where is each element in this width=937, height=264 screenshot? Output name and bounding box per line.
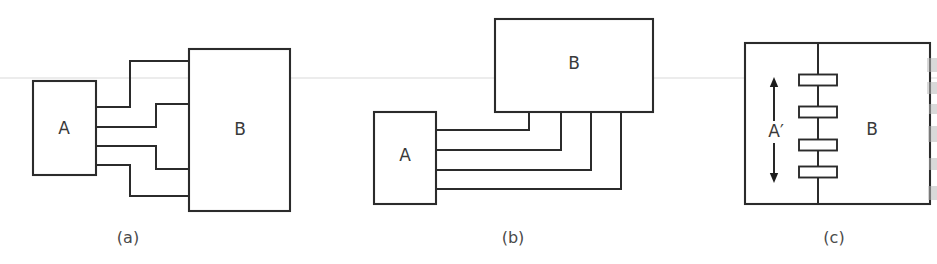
- edge-smudge: [927, 82, 937, 94]
- caption-b: (b): [502, 228, 525, 247]
- figure-canvas: AB(a)BA(b)A′B(c): [0, 0, 937, 264]
- panel-a: AB(a): [33, 49, 290, 247]
- wire-1: [96, 61, 189, 107]
- edge-smudge: [929, 104, 937, 114]
- block-b-label: B: [234, 119, 246, 139]
- block-a-label: A: [399, 145, 411, 165]
- edge-smudge: [928, 186, 937, 200]
- contact-pad-1: [799, 75, 837, 86]
- block-b-label: B: [568, 53, 580, 73]
- wire-3: [436, 112, 591, 170]
- contact-pad-4: [799, 167, 837, 178]
- edge-smudge: [928, 126, 937, 142]
- contact-pad-3: [799, 140, 837, 151]
- wire-1: [436, 112, 529, 130]
- region-a-prime-label: A′: [768, 121, 784, 141]
- interconnection-figure: AB(a)BA(b)A′B(c): [0, 0, 937, 264]
- contact-pad-2: [799, 107, 837, 118]
- panel-c: A′B(c): [745, 43, 930, 247]
- region-b-label: B: [866, 119, 878, 139]
- panel-b: BA(b): [374, 19, 653, 247]
- edge-smudge: [929, 158, 937, 170]
- edge-smudge: [927, 58, 937, 72]
- caption-c: (c): [823, 228, 844, 247]
- caption-a: (a): [117, 228, 139, 247]
- block-a-label: A: [58, 118, 70, 138]
